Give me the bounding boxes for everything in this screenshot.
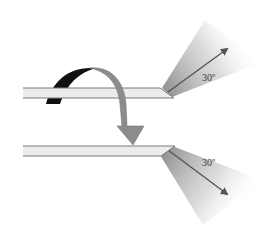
top-angle-label: 30º — [202, 72, 215, 83]
flip-arrow-back-icon — [46, 68, 96, 104]
top-blade — [23, 88, 174, 98]
bottom-angle-fan: 30º — [160, 146, 262, 225]
top-angle-fan: 30º — [162, 20, 262, 97]
bottom-blade — [23, 146, 175, 156]
flip-arrow-front-icon — [90, 68, 144, 145]
blade-angle-diagram: 30º 30º — [0, 0, 266, 240]
bottom-angle-label: 30º — [202, 157, 215, 168]
